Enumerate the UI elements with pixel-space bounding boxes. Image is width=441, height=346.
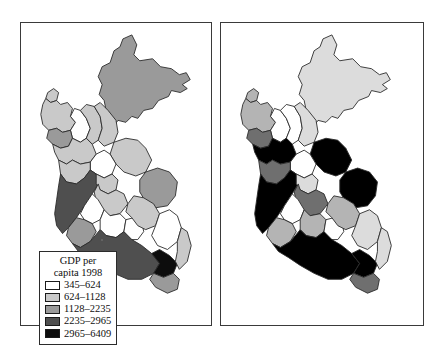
- region-ucayali[interactable]: [310, 138, 352, 176]
- figure-two-choropleth-maps: GDP per capita 1998 345–624 624–1128 112…: [0, 0, 441, 346]
- legend-row[interactable]: 2235–2965: [45, 316, 111, 328]
- legend-gdp: GDP per capita 1998 345–624 624–1128 112…: [39, 251, 117, 345]
- legend-swatch-icon: [45, 281, 60, 290]
- panel-gdp-map: GDP per capita 1998 345–624 624–1128 112…: [20, 22, 212, 326]
- region-ucayali[interactable]: [110, 138, 152, 176]
- region-piura[interactable]: [241, 99, 276, 133]
- legend-label: 2235–2965: [64, 316, 111, 327]
- region-loreto[interactable]: [98, 35, 190, 127]
- legend-swatch-icon: [45, 329, 60, 338]
- legend-row[interactable]: 345–624: [45, 279, 111, 291]
- legend-label: 624–1128: [64, 292, 106, 303]
- legend-label: 345–624: [64, 280, 101, 291]
- legend-entries: 345–624 624–1128 1128–2235 2235–2965 296…: [45, 279, 111, 340]
- legend-swatch-icon: [45, 317, 60, 326]
- legend-swatch-icon: [45, 293, 60, 302]
- legend-title-line-2: capita 1998: [45, 267, 111, 279]
- legend-title-line-1: GDP per: [45, 255, 111, 267]
- map-speck: [101, 239, 103, 241]
- legend-label: 1128–2235: [64, 304, 111, 315]
- region-piura[interactable]: [41, 99, 76, 133]
- panel-teledensity-map: Teledensity increase between 1992 and 19…: [220, 22, 424, 326]
- legend-row[interactable]: 1128–2235: [45, 303, 111, 315]
- legend-row[interactable]: 624–1128: [45, 291, 111, 303]
- legend-row[interactable]: 2965–6409: [45, 328, 111, 340]
- legend-swatch-icon: [45, 305, 60, 314]
- legend-label: 2965–6409: [64, 329, 111, 340]
- region-loreto[interactable]: [298, 35, 390, 127]
- peru-map-teledensity: [221, 23, 423, 325]
